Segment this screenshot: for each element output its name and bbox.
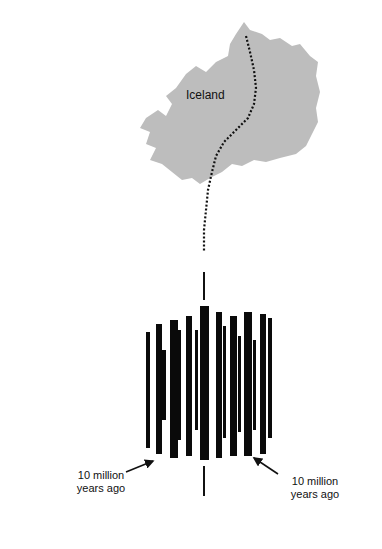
left-age-line1: 10 million bbox=[68, 469, 134, 482]
annotation-arrows bbox=[0, 0, 382, 549]
left-age-line2: years ago bbox=[68, 482, 134, 495]
right-arrow bbox=[254, 458, 278, 474]
right-age-line2: years ago bbox=[282, 488, 348, 501]
right-age-line1: 10 million bbox=[282, 475, 348, 488]
right-age-label: 10 million years ago bbox=[282, 475, 348, 501]
left-age-label: 10 million years ago bbox=[68, 469, 134, 495]
